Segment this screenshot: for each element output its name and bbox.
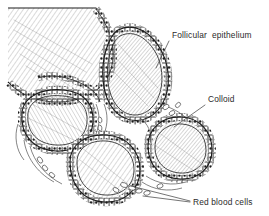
label-follicular-epithelium: Follicular epithelium [172, 30, 252, 40]
label-colloid: Colloid [208, 94, 235, 104]
histology-drawing: Follicular epithelium Colloid Red blood … [0, 0, 269, 216]
follicle-upper-right [103, 27, 169, 120]
follicle-bottom [70, 135, 140, 202]
thyroid-follicle-figure: Follicular epithelium Colloid Red blood … [0, 0, 269, 216]
label-red-blood-cells: Red blood cells [193, 197, 253, 207]
